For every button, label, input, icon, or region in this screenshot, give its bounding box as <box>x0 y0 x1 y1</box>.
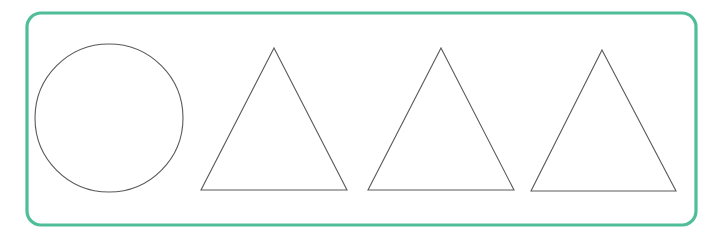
triangle-3 <box>531 50 676 191</box>
shape-group <box>35 44 676 192</box>
circle <box>35 44 183 192</box>
shapes-canvas <box>0 0 705 237</box>
triangle-2 <box>368 48 514 190</box>
frame-rectangle <box>27 13 696 225</box>
shapes-drawing <box>0 0 705 237</box>
triangle-1 <box>201 48 347 190</box>
